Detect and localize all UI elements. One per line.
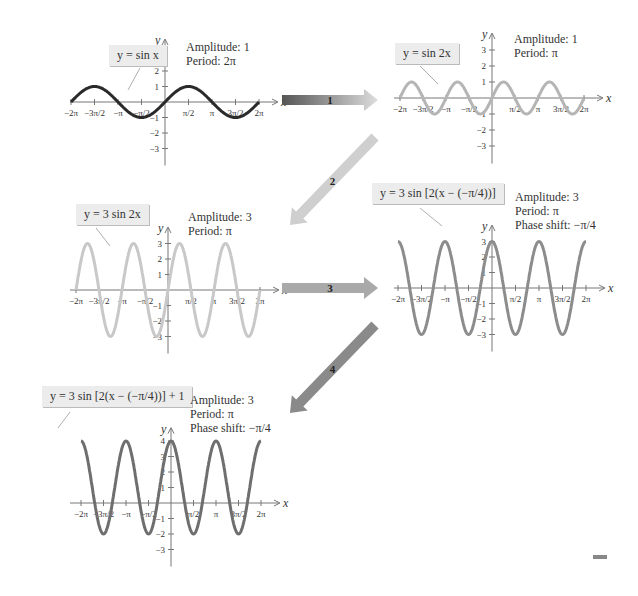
period-label: Period: π bbox=[188, 224, 252, 238]
svg-text:3π/2: 3π/2 bbox=[554, 294, 570, 304]
phase-label: Phase shift: −π/4 bbox=[515, 218, 596, 232]
svg-text:2π: 2π bbox=[256, 509, 266, 519]
graph-3: xy−2π−3π/2−π−π/2π/2π3π/22π−3−2−1123 bbox=[69, 221, 288, 354]
svg-text:−3π/2: −3π/2 bbox=[411, 294, 432, 304]
svg-text:−π: −π bbox=[113, 108, 123, 118]
equation-box-3: y = 3 sin 2x bbox=[76, 204, 149, 225]
svg-text:−3: −3 bbox=[149, 144, 159, 154]
svg-text:−π: −π bbox=[440, 294, 450, 304]
y-axis-label: y bbox=[157, 221, 164, 235]
svg-text:π: π bbox=[214, 509, 219, 519]
svg-text:−3π/2: −3π/2 bbox=[84, 108, 105, 118]
equation-box-2: y = sin 2x bbox=[395, 43, 459, 64]
svg-text:3: 3 bbox=[158, 239, 163, 249]
svg-text:2: 2 bbox=[158, 254, 163, 264]
svg-text:1: 1 bbox=[158, 270, 163, 280]
arrow-step-2: 2 bbox=[282, 129, 383, 232]
svg-text:−2π: −2π bbox=[391, 294, 406, 304]
graph-5: xy−2π−3π/2−π−π/2π/2π3π/22π−3−2−11234 bbox=[70, 422, 289, 567]
svg-text:π/2: π/2 bbox=[183, 108, 195, 118]
info-5: Amplitude: 3Period: πPhase shift: −π/4 bbox=[190, 393, 271, 435]
amplitude-label: Amplitude: 1 bbox=[186, 40, 250, 54]
svg-text:−1: −1 bbox=[152, 301, 162, 311]
leader-line bbox=[128, 68, 140, 90]
svg-text:π/2: π/2 bbox=[510, 294, 522, 304]
svg-text:4: 4 bbox=[330, 363, 336, 375]
svg-text:π: π bbox=[537, 294, 542, 304]
svg-text:−π: −π bbox=[121, 509, 131, 519]
period-label: Period: π bbox=[190, 407, 271, 421]
info-4: Amplitude: 3Period: πPhase shift: −π/4 bbox=[515, 190, 596, 232]
svg-text:1: 1 bbox=[327, 94, 333, 106]
leader-line bbox=[96, 228, 110, 246]
svg-text:3: 3 bbox=[482, 45, 487, 55]
svg-text:3: 3 bbox=[482, 237, 487, 247]
svg-text:2π: 2π bbox=[581, 294, 591, 304]
y-axis-label: y bbox=[160, 422, 167, 436]
svg-text:2π: 2π bbox=[254, 108, 264, 118]
svg-text:2: 2 bbox=[330, 175, 336, 187]
svg-text:−3: −3 bbox=[476, 141, 486, 151]
svg-text:−2π: −2π bbox=[69, 296, 84, 306]
phase-label: Phase shift: −π/4 bbox=[190, 421, 271, 435]
graph-1: xy−2π−3π/2−π−π/2π/2π3π/22π−3−2−1123 bbox=[64, 33, 287, 166]
page-marker bbox=[593, 555, 607, 559]
svg-text:2: 2 bbox=[482, 61, 487, 71]
equation-box-4: y = 3 sin [2(x − (−π/4))] bbox=[372, 183, 504, 204]
svg-text:2: 2 bbox=[155, 66, 160, 76]
svg-text:1: 1 bbox=[482, 77, 487, 87]
x-axis-label: x bbox=[282, 496, 289, 510]
x-axis-label: x bbox=[605, 91, 612, 105]
info-1: Amplitude: 1Period: 2π bbox=[186, 40, 250, 68]
svg-text:π: π bbox=[210, 108, 215, 118]
svg-text:−2π: −2π bbox=[393, 104, 408, 114]
leader-line bbox=[420, 66, 438, 84]
arrow-step-1: 1 bbox=[282, 89, 378, 111]
equation-box-1: y = sin x bbox=[109, 45, 167, 66]
svg-text:−3: −3 bbox=[155, 545, 165, 555]
amplitude-label: Amplitude: 1 bbox=[514, 32, 578, 46]
info-2: Amplitude: 1Period: π bbox=[514, 32, 578, 60]
svg-text:−3: −3 bbox=[476, 330, 486, 340]
transformation-diagram: xy−2π−3π/2−π−π/2π/2π3π/22π−3−2−1123xy−2π… bbox=[0, 0, 638, 596]
graph-4: xy−2π−3π/2−π−π/2π/2π3π/22π−3−2−1123 bbox=[391, 219, 614, 352]
svg-text:π: π bbox=[536, 104, 541, 114]
svg-text:−1: −1 bbox=[155, 514, 165, 524]
leader-line bbox=[420, 208, 442, 226]
svg-text:−2: −2 bbox=[476, 314, 486, 324]
period-label: Period: π bbox=[514, 46, 578, 60]
period-label: Period: 2π bbox=[186, 54, 250, 68]
y-axis-label: y bbox=[481, 27, 488, 41]
arrow-step-4: 4 bbox=[282, 317, 383, 420]
svg-text:4: 4 bbox=[161, 436, 166, 446]
amplitude-label: Amplitude: 3 bbox=[190, 393, 271, 407]
svg-text:1: 1 bbox=[155, 82, 160, 92]
svg-text:3: 3 bbox=[327, 282, 333, 294]
svg-text:−2π: −2π bbox=[74, 509, 89, 519]
amplitude-label: Amplitude: 3 bbox=[188, 210, 252, 224]
svg-text:−2: −2 bbox=[476, 125, 486, 135]
period-label: Period: π bbox=[515, 204, 596, 218]
y-axis-label: y bbox=[481, 219, 488, 233]
arrow-step-3: 3 bbox=[282, 277, 378, 299]
svg-text:−2π: −2π bbox=[64, 108, 79, 118]
svg-text:−2: −2 bbox=[155, 529, 165, 539]
amplitude-label: Amplitude: 3 bbox=[515, 190, 596, 204]
svg-text:π/2: π/2 bbox=[188, 509, 200, 519]
equation-box-5: y = 3 sin [2(x − (−π/4))] + 1 bbox=[42, 386, 192, 407]
x-axis-label: x bbox=[607, 281, 614, 295]
info-3: Amplitude: 3Period: π bbox=[188, 210, 252, 238]
svg-text:−π/2: −π/2 bbox=[460, 294, 477, 304]
leader-line bbox=[58, 412, 70, 428]
svg-text:−2: −2 bbox=[149, 128, 159, 138]
